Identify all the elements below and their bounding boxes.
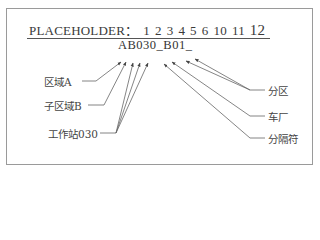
label-subarea-b: 子区域B [44, 98, 82, 113]
label-area-a: 区域A [44, 74, 72, 89]
label-workstation-030: 工作站030 [48, 126, 98, 141]
label-partition: 分区 [268, 83, 288, 98]
label-separator: 分隔符 [268, 131, 298, 146]
label-workshop: 车厂 [268, 109, 288, 124]
